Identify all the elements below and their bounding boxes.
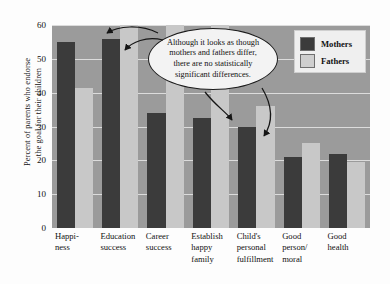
bar-group [52,25,97,228]
bar-fathers [256,106,274,228]
y-tick-10: 10 [22,190,46,199]
bar-mothers [238,127,256,229]
legend-label-mothers: Mothers [321,39,352,49]
bar-mothers [57,42,75,228]
legend: Mothers Fathers [294,30,366,73]
bar-mothers [284,157,302,228]
legend-item-mothers: Mothers [300,35,361,52]
legend-item-fathers: Fathers [300,52,361,69]
bar-mothers [147,113,165,228]
bar-group [97,25,142,228]
y-tick-30: 30 [22,122,46,131]
annotation-callout-text: Although it looks as thoughmothers and f… [167,38,259,80]
bar-fathers [75,88,93,228]
y-tick-60: 60 [22,21,46,30]
bar-fathers [120,25,138,228]
y-axis-title-line-2: the goal for their children [33,58,44,166]
bar-fathers [302,143,320,228]
chart-figure: Percent of parents who endorse the goal … [0,0,390,284]
y-tick-50: 50 [22,54,46,63]
annotation-callout: Although it looks as thoughmothers and f… [148,28,278,90]
y-axis-title: Percent of parents who endorse the goal … [16,17,50,207]
bar-mothers [329,154,347,228]
legend-label-fathers: Fathers [321,56,349,66]
bar-mothers [102,39,120,228]
y-tick-40: 40 [22,88,46,97]
x-label-6: Goodhealth [328,231,389,254]
y-tick-0: 0 [22,224,46,233]
legend-swatch-mothers [300,37,315,51]
x-axis-labels: Happi-nessEducationsuccessCareersuccessE… [52,231,370,279]
y-tick-20: 20 [22,156,46,165]
y-axis-title-line-1: Percent of parents who endorse [22,58,33,166]
legend-swatch-fathers [300,54,315,68]
bar-fathers [347,162,365,228]
bar-mothers [193,118,211,228]
